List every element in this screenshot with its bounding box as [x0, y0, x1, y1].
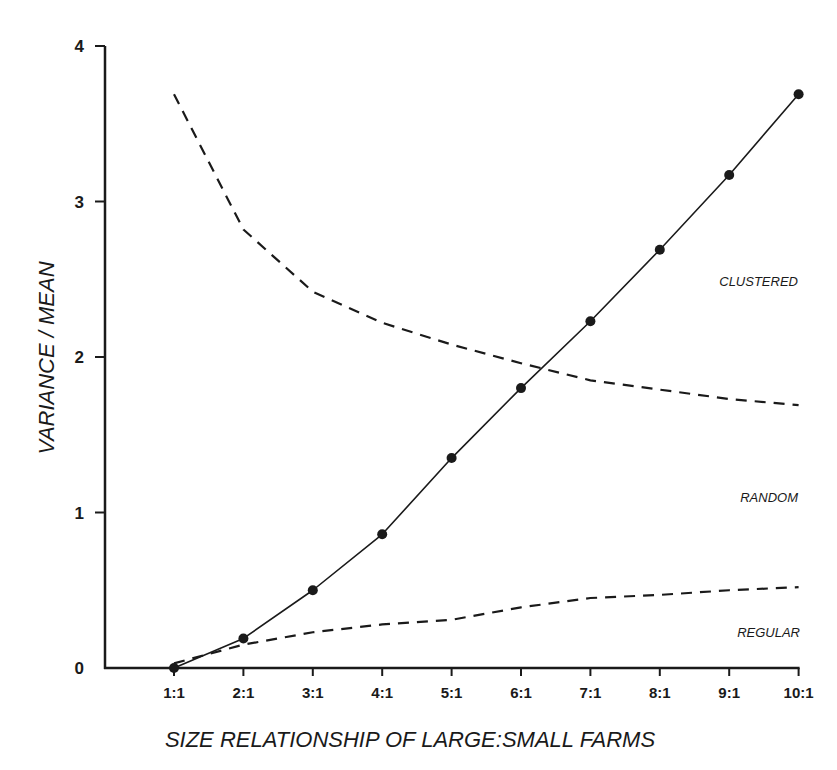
data-point-marker — [794, 89, 804, 99]
chart: 012341:12:13:14:15:16:17:18:19:110:1 VAR… — [0, 0, 837, 770]
series-group — [169, 89, 804, 673]
x-tick-label: 6:1 — [510, 684, 532, 701]
x-tick-label: 4:1 — [371, 684, 393, 701]
labels: VARIANCE / MEAN SIZE RELATIONSHIP OF LAR… — [34, 261, 800, 752]
data-point-marker — [655, 245, 665, 255]
series-line-1 — [174, 94, 799, 405]
y-axis-title: VARIANCE / MEAN — [34, 261, 59, 454]
data-point-marker — [377, 529, 387, 539]
x-tick-label: 5:1 — [441, 684, 463, 701]
x-tick-label: 2:1 — [233, 684, 255, 701]
y-tick-label: 2 — [75, 348, 84, 367]
data-point-marker — [169, 663, 179, 673]
y-tick-label: 3 — [75, 193, 84, 212]
x-tick-label: 7:1 — [580, 684, 602, 701]
data-point-marker — [308, 585, 318, 595]
x-axis-title: SIZE RELATIONSHIP OF LARGE:SMALL FARMS — [165, 727, 656, 752]
data-point-marker — [724, 170, 734, 180]
annotation-clustered: CLUSTERED — [719, 274, 798, 289]
x-tick-label: 8:1 — [649, 684, 671, 701]
data-point-marker — [447, 453, 457, 463]
x-tick-label: 10:1 — [784, 684, 814, 701]
annotation-regular: REGULAR — [737, 625, 800, 640]
x-tick-label: 1:1 — [163, 684, 185, 701]
axes: 012341:12:13:14:15:16:17:18:19:110:1 — [75, 37, 814, 701]
series-line-0 — [174, 94, 799, 668]
x-tick-label: 3:1 — [302, 684, 324, 701]
y-tick-label: 0 — [75, 659, 84, 678]
y-tick-label: 1 — [75, 504, 84, 523]
x-tick-label: 9:1 — [718, 684, 740, 701]
data-point-marker — [516, 383, 526, 393]
y-tick-label: 4 — [75, 37, 85, 56]
annotation-random: RANDOM — [740, 490, 798, 505]
data-point-marker — [238, 633, 248, 643]
data-point-marker — [585, 316, 595, 326]
series-line-2 — [174, 587, 799, 663]
